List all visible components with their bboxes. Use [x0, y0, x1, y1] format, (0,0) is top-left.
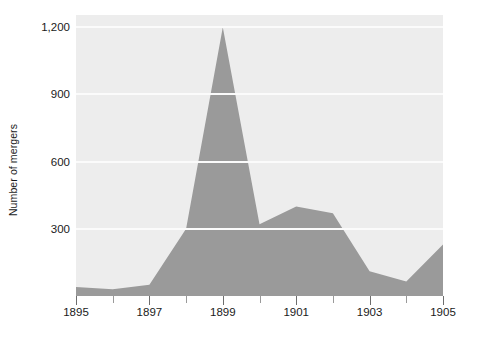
- y-tick-label-300: 300: [20, 223, 70, 235]
- x-tick-label-1905: 1905: [430, 306, 456, 318]
- x-tick-mark-1896: [113, 296, 114, 303]
- x-tick-mark-1902: [333, 296, 334, 303]
- y-axis-title-text: Number of mergers: [7, 123, 19, 215]
- x-tick-mark-1899: [223, 296, 224, 305]
- x-tick-mark-1897: [149, 296, 150, 305]
- gridline-y-600: [76, 161, 443, 163]
- y-tick-label-900: 900: [20, 88, 70, 100]
- merger-activity-area-chart: Number of mergers 3006009001,200 1895189…: [0, 0, 478, 339]
- x-tick-mark-1905: [443, 296, 444, 305]
- y-tick-label-1200: 1,200: [20, 21, 70, 33]
- x-tick-mark-1904: [406, 296, 407, 303]
- x-tick-label-1897: 1897: [137, 306, 163, 318]
- plot-area: [76, 15, 443, 296]
- x-tick-mark-1900: [260, 296, 261, 303]
- x-axis-tick-labels: 189518971899190119031905: [0, 306, 478, 326]
- gridline-y-300: [76, 228, 443, 230]
- x-tick-mark-1898: [186, 296, 187, 303]
- x-tick-mark-1903: [370, 296, 371, 305]
- gridline-y-900: [76, 93, 443, 95]
- x-tick-label-1901: 1901: [283, 306, 309, 318]
- area-series-number-of-mergers: [76, 15, 443, 296]
- x-tick-label-1899: 1899: [210, 306, 236, 318]
- x-tick-label-1895: 1895: [63, 306, 89, 318]
- y-tick-label-600: 600: [20, 156, 70, 168]
- x-tick-label-1903: 1903: [357, 306, 383, 318]
- x-tick-mark-1901: [296, 296, 297, 305]
- x-tick-mark-1895: [76, 296, 77, 305]
- y-axis-tick-labels: 3006009001,200: [20, 0, 70, 339]
- gridline-y-1200: [76, 26, 443, 28]
